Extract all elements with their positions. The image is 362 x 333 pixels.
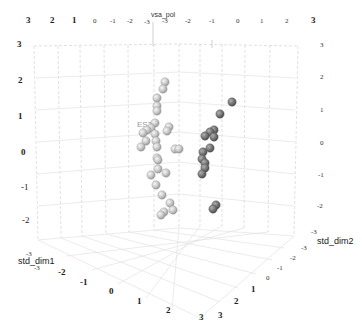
svg-text:1: 1 [72, 15, 77, 25]
data-point [210, 133, 218, 141]
svg-text:-3: -3 [301, 244, 307, 252]
svg-text:1: 1 [251, 284, 256, 294]
svg-text:2: 2 [50, 15, 55, 25]
series-dark-points [198, 98, 236, 213]
bottom-y-ticks: -3 -2 -1 0 1 2 3 [218, 244, 307, 320]
top-ticks-right: -3 -2 -1 0 1 3 [162, 15, 316, 25]
svg-text:-2: -2 [290, 254, 296, 262]
svg-text:-3: -3 [162, 17, 168, 25]
svg-text:-1: -1 [80, 277, 88, 287]
svg-text:3: 3 [311, 15, 316, 25]
svg-text:-2: -2 [58, 267, 66, 277]
data-point [159, 85, 167, 93]
svg-text:2: 2 [18, 75, 23, 85]
y-axis-label: std_dim2 [317, 236, 354, 246]
data-point [139, 129, 147, 137]
top-ticks-left: 3 2 1 0 -1 -2 -3 [26, 15, 150, 26]
svg-text:2: 2 [166, 305, 171, 315]
data-point [152, 181, 160, 189]
top-tick-right-2: 2 [285, 17, 289, 25]
svg-text:0: 0 [320, 139, 324, 147]
data-point [228, 98, 236, 106]
svg-text:-1: -1 [318, 171, 324, 179]
data-point [153, 94, 161, 102]
3d-scatter-plot: 3 2 1 0 -1 -2 -3 -3 -2 -1 0 1 3 2 vsa_po… [0, 0, 362, 333]
data-point [209, 205, 217, 213]
svg-text:0: 0 [109, 286, 114, 296]
data-point [163, 127, 171, 135]
svg-text:-3: -3 [34, 264, 40, 272]
right-z-ticks: 3 2 1 0 -1 -2 -3 [311, 41, 324, 236]
data-point [175, 145, 183, 153]
data-point [201, 132, 209, 140]
data-point [157, 211, 165, 219]
svg-text:3: 3 [26, 15, 31, 25]
data-point [162, 169, 170, 177]
bottom-x-ticks: -3 -2 -1 0 1 2 3 [34, 264, 204, 322]
data-point [154, 156, 162, 164]
data-point [158, 191, 166, 199]
data-point [153, 107, 161, 115]
svg-text:0: 0 [236, 17, 240, 25]
svg-text:1: 1 [18, 111, 23, 121]
svg-text:-1: -1 [21, 182, 29, 192]
svg-text:1: 1 [137, 296, 142, 306]
svg-text:0: 0 [21, 147, 26, 157]
data-point [147, 171, 155, 179]
svg-text:1: 1 [320, 106, 324, 114]
data-point [137, 143, 145, 151]
data-point [216, 110, 224, 118]
data-point [198, 170, 206, 178]
svg-text:-2: -2 [185, 17, 191, 25]
svg-text:1: 1 [260, 17, 264, 25]
svg-text:-2: -2 [317, 202, 323, 210]
svg-text:-1: -1 [209, 17, 215, 25]
svg-text:-1: -1 [110, 17, 116, 25]
svg-text:3: 3 [17, 39, 22, 49]
left-z-ticks: 3 2 1 0 -1 -2 [17, 39, 30, 225]
svg-text:-2: -2 [127, 17, 133, 25]
svg-text:3: 3 [199, 312, 204, 322]
data-point [154, 165, 162, 173]
data-point [169, 206, 177, 214]
z-axis-label: vsa_pol [151, 11, 176, 19]
svg-text:3: 3 [320, 41, 324, 49]
svg-text:0: 0 [266, 274, 270, 282]
svg-text:3: 3 [218, 310, 223, 320]
series-light-points [137, 78, 183, 219]
svg-text:-3: -3 [144, 18, 150, 26]
svg-text:-2: -2 [22, 215, 30, 225]
svg-text:2: 2 [320, 73, 324, 81]
data-point [153, 143, 161, 151]
svg-text:0: 0 [93, 17, 97, 25]
svg-text:-3: -3 [311, 228, 317, 236]
svg-text:-1: -1 [277, 264, 283, 272]
svg-text:2: 2 [234, 296, 239, 306]
